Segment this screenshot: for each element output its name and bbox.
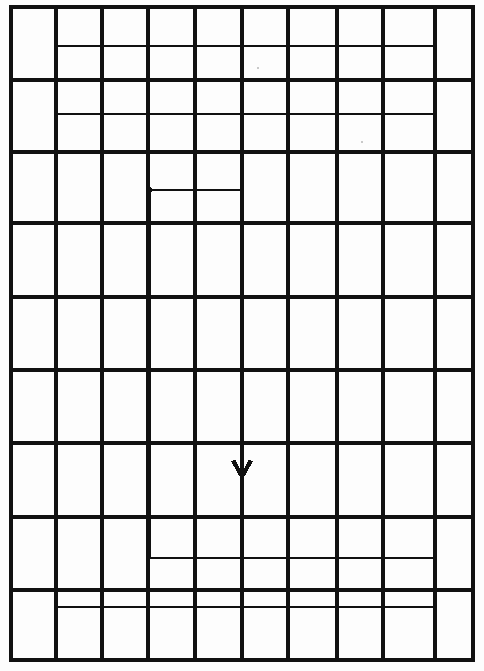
paper-speck-1 (361, 141, 363, 143)
spiral-inner-node (147, 187, 152, 192)
figure-root (0, 0, 484, 671)
paper-speck-0 (257, 67, 259, 69)
grid-spiral-figure (0, 0, 484, 671)
